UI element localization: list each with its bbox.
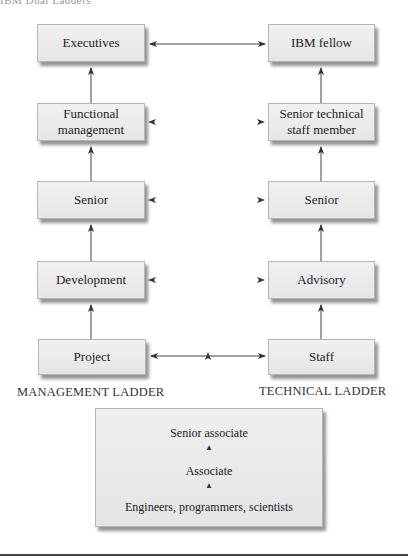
box-label: Functional management <box>46 106 136 138</box>
tech-box-senior: Senior <box>268 181 375 219</box>
mgmt-box-functional-management: Functional management <box>37 103 145 141</box>
technical-ladder-label: TECHNICAL LADDER <box>259 384 386 399</box>
mgmt-box-project: Project <box>38 339 146 375</box>
tech-box-ibm-fellow: IBM fellow <box>268 24 375 62</box>
entry-level-associate: Associate <box>96 464 322 479</box>
mgmt-box-development: Development <box>37 261 145 299</box>
mgmt-box-executives: Executives <box>37 24 145 62</box>
entry-levels-box: Senior associate ▲ Associate ▲ Engineers… <box>95 408 323 527</box>
arrow-up-icon: ▲ <box>96 443 322 452</box>
box-label: Senior <box>74 192 108 208</box>
entry-level-engineers: Engineers, programmers, scientists <box>96 500 322 515</box>
box-label: Development <box>56 272 126 288</box>
box-label: Senior technical staff member <box>272 106 372 138</box>
box-label: Senior <box>305 192 339 208</box>
mgmt-box-senior: Senior <box>37 181 145 219</box>
page-divider <box>0 554 408 556</box>
tech-box-staff: Staff <box>268 339 375 375</box>
tech-box-senior-technical-staff-member: Senior technical staff member <box>268 103 375 141</box>
tech-box-advisory: Advisory <box>268 261 375 299</box>
management-ladder-label: MANAGEMENT LADDER <box>17 385 164 400</box>
box-label: Advisory <box>297 272 345 288</box>
box-label: Project <box>74 349 111 365</box>
entry-level-senior-associate: Senior associate <box>96 426 322 441</box>
arrow-up-icon: ▲ <box>96 481 322 490</box>
box-label: Executives <box>62 35 119 51</box>
box-label: IBM fellow <box>291 35 352 51</box>
box-label: Staff <box>309 349 334 365</box>
